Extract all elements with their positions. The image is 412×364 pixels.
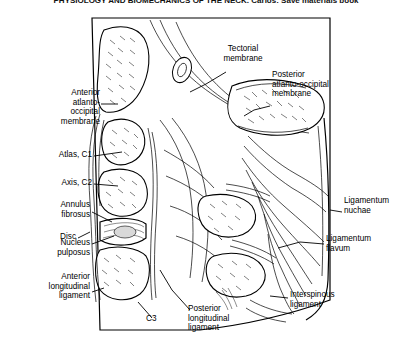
leader-anterior-longitudinal-ligament	[92, 288, 104, 292]
label-nucleus-pulposus: Nucleus pulposus	[24, 238, 90, 257]
label-ligamentum-flavum: Ligamentum flavum	[326, 234, 402, 253]
label-posterior-atlanto-occipital-membrane: Posterior atlanto-occipital membrane	[272, 70, 358, 99]
leader-ligamentum-nuchae	[330, 210, 342, 212]
label-interspinous-ligament: Interspinous ligament	[290, 290, 368, 309]
leader-ligamentum-flavum	[278, 242, 324, 248]
label-atlas-c1: Atlas, C1	[24, 150, 92, 160]
label-axis-c2: Axis, C2	[24, 178, 92, 188]
label-annulus-fibrosus: Annulus fibrosus	[24, 200, 90, 219]
label-posterior-longitudinal-ligament: Posterior longitudinal ligament	[188, 304, 264, 333]
label-anterior-atlanto-occipital-membrane: Anterior atlanto- occipital membrane	[18, 88, 100, 126]
figure-canvas: PHYSIOLOGY AND BIOMECHANICS OF THE NECK.…	[0, 0, 412, 364]
leader-axis-c2	[94, 184, 118, 186]
leader-atlas-c1	[94, 152, 122, 156]
leader-nucleus-pulposus	[92, 236, 114, 244]
leader-tectorial-membrane	[190, 72, 226, 92]
leader-posterior-longitudinal-ligament	[160, 270, 190, 310]
leader-posterior-atlanto-occipital-membrane	[244, 106, 270, 116]
label-c3: C3	[146, 314, 176, 324]
label-anterior-longitudinal-ligament: Anterior longitudinal ligament	[16, 272, 90, 301]
label-tectorial-membrane: Tectorial membrane	[210, 44, 276, 63]
label-ligamentum-nuchae: Ligamentum nuchae	[344, 196, 412, 215]
leader-interspinous-ligament	[270, 296, 288, 298]
leader-annulus-fibrosus	[92, 212, 112, 222]
